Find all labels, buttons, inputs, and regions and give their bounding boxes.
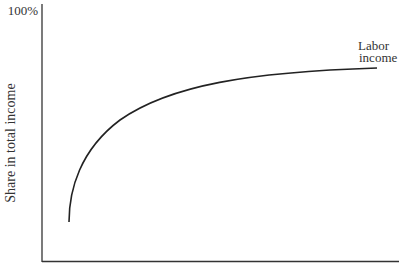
labor-income-curve xyxy=(69,68,377,222)
chart: 100% Share in total income Labor income xyxy=(0,0,400,273)
series-label-line2: income xyxy=(359,50,397,65)
y-top-tick-label: 100% xyxy=(8,3,39,18)
y-axis-label: Share in total income xyxy=(3,83,18,202)
